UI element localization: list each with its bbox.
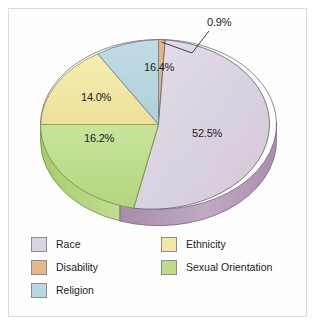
slice-value-religion: 16.4% bbox=[144, 61, 174, 73]
legend-label-disability: Disability bbox=[56, 261, 98, 273]
legend-item-race: Race bbox=[31, 235, 98, 253]
legend-item-ethnicity: Ethnicity bbox=[161, 235, 272, 253]
legend-item-disability: Disability bbox=[31, 258, 98, 276]
slice-value-ethnicity: 14.0% bbox=[81, 91, 111, 103]
legend-column-left: Race Disability Religion bbox=[31, 235, 98, 304]
legend-swatch-religion bbox=[31, 283, 47, 298]
pie-chart: 52.5% 16.2% 14.0% 16.4% 0.9% bbox=[9, 9, 308, 227]
pie-chart-svg bbox=[9, 9, 308, 227]
legend-label-religion: Religion bbox=[56, 284, 94, 296]
legend-swatch-disability bbox=[31, 260, 47, 275]
legend-swatch-sexual-orientation bbox=[161, 260, 177, 275]
slice-value-sexual-orientation: 16.2% bbox=[84, 132, 114, 144]
slice-value-race: 52.5% bbox=[192, 127, 222, 139]
legend-label-sexual-orientation: Sexual Orientation bbox=[186, 261, 272, 273]
slice-value-disability: 0.9% bbox=[207, 16, 231, 28]
chart-legend: Race Disability Religion Ethnicity Sexua… bbox=[9, 227, 308, 317]
legend-swatch-ethnicity bbox=[161, 237, 177, 252]
legend-label-ethnicity: Ethnicity bbox=[186, 238, 226, 250]
legend-column-right: Ethnicity Sexual Orientation bbox=[161, 235, 272, 281]
chart-card: 52.5% 16.2% 14.0% 16.4% 0.9% Race Disabi… bbox=[8, 8, 307, 317]
legend-item-religion: Religion bbox=[31, 281, 98, 299]
legend-label-race: Race bbox=[56, 238, 81, 250]
legend-swatch-race bbox=[31, 237, 47, 252]
legend-item-sexual-orientation: Sexual Orientation bbox=[161, 258, 272, 276]
